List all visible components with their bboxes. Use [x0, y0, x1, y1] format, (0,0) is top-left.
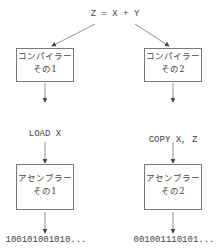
binary-output-1: 100101001010... — [0, 234, 92, 246]
compiler-1-number: その1 — [17, 63, 73, 76]
asm-line: LOAD X — [5, 128, 85, 140]
compiler-1-label: コンパイラー — [17, 50, 73, 63]
binary-output-2: 001001110101... — [128, 234, 220, 246]
assembler-1-label: アセンブラー — [17, 172, 73, 185]
compiler-2-number: その2 — [145, 63, 201, 76]
compiler-1-box: コンパイラー その1 — [16, 48, 74, 82]
assembler-2-label: アセンブラー — [145, 172, 201, 185]
compiler-2-label: コンパイラー — [145, 50, 201, 63]
assembler-1-box: アセンブラー その1 — [16, 164, 74, 210]
expression: Z = X + Y — [70, 8, 160, 20]
assembler-2-box: アセンブラー その2 — [144, 164, 202, 210]
compiler-2-box: コンパイラー その2 — [144, 48, 202, 82]
assembler-2-number: その2 — [145, 185, 201, 198]
assembler-1-number: その1 — [17, 185, 73, 198]
asm-line: COPY X, Z — [128, 134, 218, 146]
